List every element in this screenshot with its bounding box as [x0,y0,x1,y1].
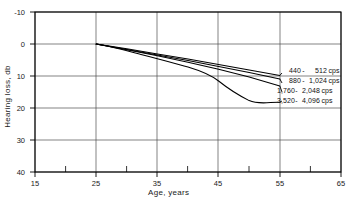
series-band-low: 440 [284,67,301,74]
x-tick-label-65: 65 [329,179,353,188]
series-band-high: 1,024 [306,77,327,84]
series-band-low: 880 [284,77,301,84]
series-band-high: 512 [306,67,327,74]
x-tick-label-45: 45 [206,179,230,188]
chart-screenshot: -10 0 10 20 30 40 15 25 35 45 55 65 Hear… [0,0,357,202]
series-band-high: 4,096 [299,97,320,104]
series-band-unit: cps [322,97,333,104]
series-label-880-1024: 880-1,024cps [284,77,340,84]
series-band-unit: cps [322,87,333,94]
x-tick-label-35: 35 [145,179,169,188]
series-label-440-512: 440-512cps [284,67,340,74]
y-tick-label-30: 30 [1,136,25,145]
x-tick-label-55: 55 [268,179,292,188]
series-band-unit: cps [329,67,340,74]
series-label-1760-2048: 1,760-2,048cps [277,87,333,94]
y-axis-title: Hearing loss, db [3,57,12,137]
x-tick-label-25: 25 [84,179,108,188]
series-band-unit: cps [329,77,340,84]
x-tick-label-15: 15 [23,179,47,188]
series-band-low: 3,520 [277,97,294,104]
series-band-high: 2,048 [299,87,320,94]
series-band-low: 1,760 [277,87,294,94]
y-tick-label-0: 0 [1,40,25,49]
y-tick-label-minus10: -10 [1,8,25,17]
y-tick-label-40: 40 [1,168,25,177]
series-label-3520-4096: 3,520-4,096cps [277,97,333,104]
x-axis-title: Age, years [148,188,189,197]
